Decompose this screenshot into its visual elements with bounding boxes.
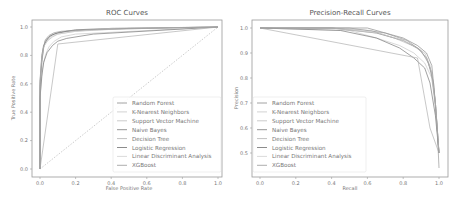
legend-label: Linear Discriminant Analysis <box>272 153 351 160</box>
y-tick-label: 0.6 <box>240 125 248 131</box>
roc-chart: ROC Curves 0.00.20.40.60.81.0 0.00.20.40… <box>10 9 222 191</box>
pr-title: Precision-Recall Curves <box>309 9 391 17</box>
legend-label: K-Nearest Neighbors <box>272 109 329 116</box>
x-tick-label: 0.0 <box>36 180 44 186</box>
legend-label: Random Forest <box>272 100 315 106</box>
roc-x-label: False Positive Rate <box>106 185 152 191</box>
y-tick-label: 0.9 <box>240 50 248 56</box>
legend-label: XGBoost <box>272 162 297 168</box>
roc-title: ROC Curves <box>106 9 148 17</box>
y-tick-label: 1.0 <box>20 24 28 30</box>
legend-label: Naive Bayes <box>132 127 167 134</box>
x-tick-label: 1.0 <box>214 180 222 186</box>
roc-y-ticks: 0.00.20.40.60.81.0 <box>20 24 32 172</box>
legend-label: Logistic Regression <box>272 145 326 152</box>
x-tick-label: 1.0 <box>435 180 443 186</box>
legend-label: K-Nearest Neighbors <box>132 109 189 116</box>
x-tick-label: 0.6 <box>363 180 371 186</box>
y-tick-label: 0.2 <box>20 137 28 143</box>
y-tick-label: 0.4 <box>20 109 28 115</box>
y-tick-label: 0.7 <box>240 100 248 106</box>
x-tick-label: 0.2 <box>72 180 80 186</box>
pr-chart: Precision-Recall Curves 0.00.20.40.60.81… <box>233 9 448 191</box>
legend-label: Support Vector Machine <box>272 118 339 125</box>
y-tick-label: 0.5 <box>240 150 248 156</box>
legend-label: XGBoost <box>132 162 157 168</box>
y-tick-label: 0.6 <box>20 81 28 87</box>
y-tick-label: 0.0 <box>20 166 28 172</box>
pr-y-label: Precision <box>233 87 239 109</box>
legend-label: Decision Tree <box>272 136 310 142</box>
legend-label: Linear Discriminant Analysis <box>132 153 211 160</box>
legend-label: Decision Tree <box>132 136 170 142</box>
x-tick-label: 0.8 <box>399 180 407 186</box>
y-tick-label: 0.8 <box>20 52 28 58</box>
pr-x-label: Recall <box>343 185 358 191</box>
x-tick-label: 0.2 <box>292 180 300 186</box>
legend-label: Naive Bayes <box>272 127 307 134</box>
y-tick-label: 1.0 <box>240 25 248 31</box>
x-tick-label: 0.4 <box>328 180 336 186</box>
pr-legend: Random ForestK-Nearest NeighborsSupport … <box>253 97 366 172</box>
roc-y-label: True Positive Rate <box>10 76 16 122</box>
x-tick-label: 0.8 <box>178 180 186 186</box>
x-tick-label: 0.0 <box>256 180 264 186</box>
y-tick-label: 0.8 <box>240 75 248 81</box>
legend-label: Random Forest <box>132 100 175 106</box>
legend-label: Logistic Regression <box>132 145 186 152</box>
legend-label: Support Vector Machine <box>132 118 199 125</box>
pr-y-ticks: 0.50.60.70.80.91.0 <box>240 25 252 156</box>
roc-legend: Random ForestK-Nearest NeighborsSupport … <box>113 97 221 172</box>
chart-canvas: ROC Curves 0.00.20.40.60.81.0 0.00.20.40… <box>0 0 460 201</box>
